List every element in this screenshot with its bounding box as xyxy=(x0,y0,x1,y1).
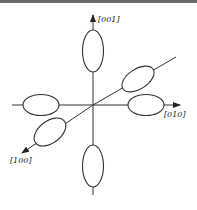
ellipse-100-upper xyxy=(117,61,158,97)
label-010: [010] xyxy=(164,110,186,119)
ellipse-010-right xyxy=(128,95,164,116)
crystal-axes-diagram: [001] [010] [100] xyxy=(0,0,197,210)
label-100: [100] xyxy=(10,156,32,165)
ellipse-001-bottom xyxy=(83,145,104,187)
ellipse-100-lower xyxy=(29,112,71,151)
label-001: [001] xyxy=(98,15,120,24)
ellipse-010-left xyxy=(23,95,59,116)
ellipse-001-top xyxy=(83,30,104,72)
